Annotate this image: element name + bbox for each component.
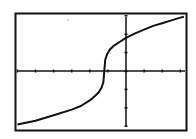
calculator-graph-screen — [0, 0, 196, 139]
stray-pixel — [67, 19, 68, 20]
graph-window-border — [16, 14, 187, 131]
